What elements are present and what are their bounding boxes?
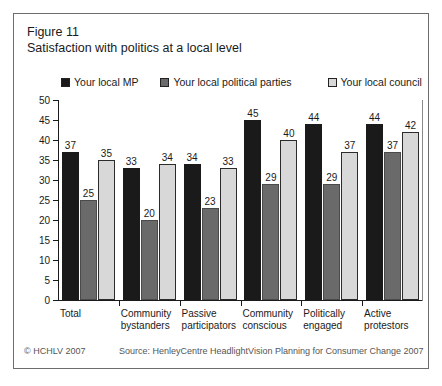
y-tick-label: 40 — [39, 135, 50, 146]
bar[interactable]: 37 — [384, 152, 401, 300]
bar-value-label: 29 — [326, 172, 337, 183]
y-tick-label: 5 — [44, 275, 50, 286]
legend-item-2[interactable]: Your local council — [328, 76, 422, 88]
bar[interactable]: 40 — [280, 140, 297, 300]
y-tick-label: 15 — [39, 235, 50, 246]
y-tick-mark — [53, 300, 58, 301]
legend-label: Your local council — [341, 76, 422, 88]
bar[interactable]: 29 — [262, 184, 279, 300]
x-tick-mark — [180, 301, 181, 306]
bar[interactable]: 33 — [123, 168, 140, 300]
bar[interactable]: 42 — [402, 132, 419, 300]
bar-value-label: 37 — [344, 140, 355, 151]
bar[interactable]: 35 — [98, 160, 115, 300]
category-label: Community conscious — [242, 308, 305, 331]
y-tick-mark — [53, 160, 58, 161]
y-tick-mark — [53, 140, 58, 141]
bar[interactable]: 44 — [305, 124, 322, 300]
bar-value-label: 34 — [187, 152, 198, 163]
legend-label: Your local MP — [74, 76, 138, 88]
x-tick-mark — [119, 301, 120, 306]
chart-legend: Your local MPYour local political partie… — [61, 76, 422, 88]
copyright-text: © HCHLV 2007 — [24, 346, 86, 356]
figure-title: Satisfaction with politics at a local le… — [27, 40, 242, 56]
y-tick-label: 0 — [44, 295, 50, 306]
bar-value-label: 35 — [101, 148, 112, 159]
category-label: Passive participators — [182, 308, 245, 331]
y-tick-mark — [53, 240, 58, 241]
category-label: Total — [60, 308, 123, 320]
y-tick-label: 45 — [39, 115, 50, 126]
legend-swatch-icon — [160, 78, 169, 87]
bar[interactable]: 25 — [80, 200, 97, 300]
bar[interactable]: 23 — [202, 208, 219, 300]
bar-value-label: 44 — [369, 112, 380, 123]
bar-value-label: 37 — [387, 140, 398, 151]
y-tick-label: 30 — [39, 175, 50, 186]
category-label: Politically engaged — [303, 308, 366, 331]
bar[interactable]: 29 — [323, 184, 340, 300]
legend-item-0[interactable]: Your local MP — [61, 76, 138, 88]
bar[interactable]: 34 — [159, 164, 176, 300]
figure-card: Figure 11 Satisfaction with politics at … — [13, 13, 429, 369]
bar[interactable]: 37 — [62, 152, 79, 300]
bar[interactable]: 37 — [341, 152, 358, 300]
y-axis-line — [58, 100, 59, 301]
legend-label: Your local political parties — [173, 76, 291, 88]
figure-number: Figure 11 — [27, 24, 242, 40]
source-text: Source: HenleyCentre HeadlightVision Pla… — [119, 346, 424, 356]
bar-value-label: 45 — [247, 108, 258, 119]
bar-value-label: 25 — [83, 188, 94, 199]
bar-value-label: 33 — [126, 156, 137, 167]
bar-value-label: 40 — [283, 128, 294, 139]
y-tick-mark — [53, 280, 58, 281]
plot-right-border — [422, 100, 423, 301]
bar[interactable]: 44 — [366, 124, 383, 300]
y-tick-mark — [53, 100, 58, 101]
legend-swatch-icon — [328, 78, 337, 87]
bar[interactable]: 33 — [220, 168, 237, 300]
bar-value-label: 23 — [205, 196, 216, 207]
category-label: Community bystanders — [121, 308, 184, 331]
bar[interactable]: 34 — [184, 164, 201, 300]
y-tick-mark — [53, 220, 58, 221]
x-tick-mark — [362, 301, 363, 306]
bar-value-label: 33 — [223, 156, 234, 167]
figure-heading: Figure 11 Satisfaction with politics at … — [27, 24, 242, 56]
chart-plot-area: 05101520253035404550 3725353320343423334… — [58, 100, 423, 301]
y-tick-mark — [53, 120, 58, 121]
y-tick-mark — [53, 260, 58, 261]
bar-value-label: 37 — [65, 140, 76, 151]
y-tick-label: 50 — [39, 95, 50, 106]
bar-value-label: 44 — [308, 112, 319, 123]
y-tick-label: 35 — [39, 155, 50, 166]
y-tick-label: 20 — [39, 215, 50, 226]
y-tick-label: 10 — [39, 255, 50, 266]
x-tick-mark — [301, 301, 302, 306]
bar[interactable]: 45 — [244, 120, 261, 300]
legend-item-1[interactable]: Your local political parties — [160, 76, 291, 88]
bar[interactable]: 20 — [141, 220, 158, 300]
bar-value-label: 42 — [405, 120, 416, 131]
category-label: Active protestors — [364, 308, 427, 331]
bar-value-label: 34 — [162, 152, 173, 163]
y-tick-label: 25 — [39, 195, 50, 206]
bar-value-label: 29 — [265, 172, 276, 183]
x-tick-mark — [241, 301, 242, 306]
legend-swatch-icon — [61, 78, 70, 87]
y-tick-mark — [53, 200, 58, 201]
bar-value-label: 20 — [144, 208, 155, 219]
y-tick-mark — [53, 180, 58, 181]
